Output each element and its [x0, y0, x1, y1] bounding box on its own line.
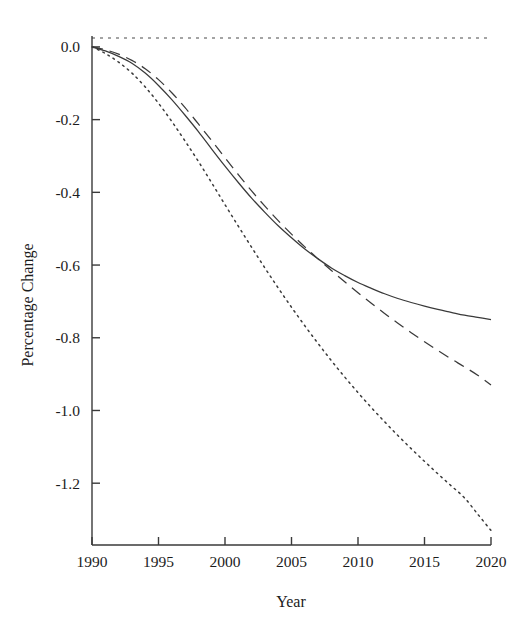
plot-background — [0, 0, 520, 627]
x-tick-label: 2000 — [210, 553, 241, 570]
x-tick-label: 1995 — [143, 553, 174, 570]
y-tick-label: -0.4 — [55, 184, 80, 201]
y-tick-label: -0.2 — [55, 111, 80, 128]
x-axis-title: Year — [276, 593, 306, 610]
y-tick-label: 0.0 — [61, 38, 81, 55]
y-tick-label: -1.0 — [55, 402, 80, 419]
x-tick-label: 2020 — [476, 553, 507, 570]
x-tick-label: 2010 — [343, 553, 374, 570]
chart-container: 0.0-0.2-0.4-0.6-0.8-1.0-1.2 199019952000… — [0, 0, 520, 627]
y-tick-label: -0.6 — [55, 257, 80, 274]
y-tick-label: -0.8 — [55, 329, 80, 346]
y-axis-title: Percentage Change — [19, 243, 37, 366]
line-chart: 0.0-0.2-0.4-0.6-0.8-1.0-1.2 199019952000… — [0, 0, 520, 627]
x-tick-label: 1990 — [77, 553, 108, 570]
x-tick-label: 2005 — [276, 553, 307, 570]
y-tick-label: -1.2 — [55, 475, 80, 492]
x-tick-label: 2015 — [409, 553, 440, 570]
